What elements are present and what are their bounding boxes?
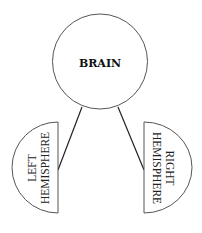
brain-node: BRAIN (53, 14, 148, 109)
edge-brain-left (58, 107, 82, 170)
left-hemisphere-line-2: HEMISPHERE (39, 132, 51, 204)
edge-brain-right (118, 107, 144, 170)
right-hemisphere-line-1: RIGHT (164, 150, 176, 185)
brain-label: BRAIN (79, 57, 121, 70)
right-hemisphere-node: RIGHT HEMISPHERE (144, 122, 192, 213)
left-hemisphere-node: LEFT HEMISPHERE (12, 122, 58, 213)
brain-diagram: BRAIN LEFT HEMISPHERE RIGHT HEMISPHERE (0, 0, 202, 233)
right-hemisphere-line-2: HEMISPHERE (151, 132, 163, 204)
left-hemisphere-line-1: LEFT (26, 154, 38, 181)
